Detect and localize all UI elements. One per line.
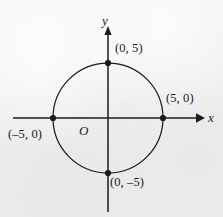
point-marker-right [160, 115, 166, 121]
point-marker-top [105, 60, 111, 66]
point-marker-left [50, 115, 56, 121]
arrow-right-icon [196, 113, 205, 123]
point-label-left: (–5, 0) [8, 128, 42, 141]
x-axis-label: x [208, 111, 214, 124]
origin-label: O [79, 124, 88, 137]
coordinate-plane-figure: (0, 5) (5, 0) (–5, 0) (0, –5) x y O [0, 0, 223, 217]
point-label-top: (0, 5) [115, 42, 143, 55]
point-label-bottom: (0, –5) [110, 176, 144, 189]
y-axis-label: y [102, 14, 108, 27]
point-label-right: (5, 0) [166, 92, 194, 105]
